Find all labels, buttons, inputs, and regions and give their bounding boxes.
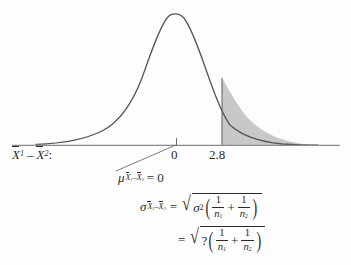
f2-frac2-num: 1 bbox=[243, 228, 252, 240]
f2-radical-sign: √ bbox=[190, 227, 199, 254]
f2-paren-open: ( bbox=[209, 232, 214, 249]
mu-symbol: μ bbox=[118, 171, 125, 184]
f1-equals: = bbox=[166, 200, 181, 213]
normal-curve-svg bbox=[0, 0, 351, 265]
f2-frac2-den-sub: 2 bbox=[249, 247, 252, 253]
axis-label-x1: X bbox=[12, 147, 20, 161]
mu-value: 0 bbox=[157, 171, 164, 184]
tick-label-0: 0 bbox=[171, 148, 178, 161]
shaded-tail-region bbox=[222, 78, 316, 145]
f2-frac1-num: 1 bbox=[217, 228, 226, 240]
f1-paren-open: ( bbox=[205, 199, 210, 216]
f1-radicand-exponent: 2 bbox=[200, 204, 204, 212]
f1-frac2-num: 1 bbox=[239, 195, 248, 207]
f1-radical-sign: √ bbox=[182, 194, 191, 221]
bell-curve bbox=[36, 14, 318, 145]
f2-fraction-2: 1 n2 bbox=[241, 228, 253, 253]
formula-standard-error-line1: σ X1–X2 = √ σ2 ( 1 n1 + 1 n2 bbox=[140, 193, 262, 220]
f1-frac2-den-sub: 2 bbox=[245, 214, 248, 220]
axis-label-x2: X bbox=[36, 147, 44, 161]
mu-leader-line bbox=[116, 145, 177, 172]
f1-plus: + bbox=[225, 201, 236, 214]
distribution-figure: X1 – X2: 0 2.8 μ X1–X2 = 0 σ X1–X2 = √ bbox=[0, 0, 351, 265]
axis-label-colon: : bbox=[48, 148, 52, 161]
f1-frac1-den-sub: 1 bbox=[220, 214, 223, 220]
f1-fraction-2: 1 n2 bbox=[238, 195, 250, 220]
f2-equals: = bbox=[178, 233, 189, 246]
f1-sub-x1: X bbox=[147, 202, 152, 211]
f1-fraction-1: 1 n1 bbox=[212, 195, 224, 220]
mu-sub-x2: X bbox=[137, 173, 142, 182]
f2-radical: √ ? ( 1 n1 + 1 n2 ) bbox=[189, 226, 265, 253]
f1-radical: √ σ2 ( 1 n1 + 1 n2 ) bbox=[181, 193, 262, 220]
f2-plus: + bbox=[229, 234, 240, 247]
tick-label-2-8: 2.8 bbox=[209, 148, 225, 161]
axis-label-xbar-difference: X1 – X2: bbox=[12, 147, 52, 161]
f2-frac1-den-sub: 1 bbox=[223, 247, 226, 253]
f1-sub-x2: X bbox=[159, 202, 164, 211]
mu-annotation: μ X1–X2 = 0 bbox=[118, 171, 164, 184]
f2-paren-close: ) bbox=[256, 232, 261, 249]
mu-equals: = bbox=[144, 171, 157, 184]
f2-fraction-1: 1 n1 bbox=[216, 228, 228, 253]
axis-label-minus: – bbox=[24, 148, 37, 161]
mu-sub-x1: X bbox=[126, 173, 131, 182]
f1-sigma: σ bbox=[140, 200, 146, 213]
f1-frac1-num: 1 bbox=[214, 195, 223, 207]
f1-paren-close: ) bbox=[252, 199, 257, 216]
formula-standard-error-line2: = √ ? ( 1 n1 + 1 n2 ) bbox=[178, 226, 265, 253]
f2-radicand-unknown: ? bbox=[201, 234, 207, 247]
